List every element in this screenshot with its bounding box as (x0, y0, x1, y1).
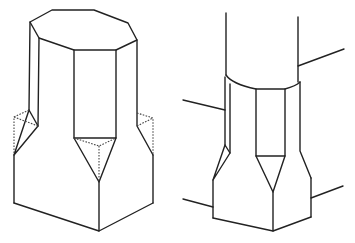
left-shaft-outer-edge (29, 22, 30, 110)
hidden-center-corner (74, 138, 116, 146)
post-base-arc (226, 75, 300, 89)
left-shaft-inner-edge (38, 38, 39, 126)
left-chamfer-stop (14, 110, 38, 155)
right-center-chamfer (256, 156, 285, 192)
center-shaft-face (74, 50, 116, 138)
right-left-chamfer (213, 145, 230, 180)
drawing (0, 0, 355, 243)
octagon-top-face (30, 10, 137, 50)
lower-right-beam (311, 186, 343, 198)
hidden-right-corner-diag (137, 118, 153, 126)
base-center-face (256, 89, 285, 156)
left-column-drawing (14, 10, 153, 231)
right-post-drawing (183, 13, 344, 231)
upper-right-beam (298, 49, 344, 66)
base-right-edge-upper (300, 82, 311, 178)
right-shaft-edge (137, 40, 153, 155)
lower-left-beam (183, 199, 213, 207)
right-base-bottom (213, 217, 311, 231)
diagram-canvas (0, 0, 355, 243)
middle-left-beam (183, 100, 225, 110)
base-bottom-edges (14, 203, 153, 231)
